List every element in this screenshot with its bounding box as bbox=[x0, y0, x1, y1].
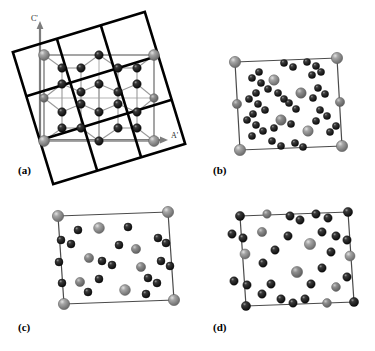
unit-cell-box-d bbox=[240, 212, 354, 306]
panel-d-graphic bbox=[0, 0, 375, 351]
atom-group-d bbox=[228, 207, 359, 310]
crystal-structure-figure: C' A' (a) bbox=[0, 0, 375, 351]
panel-label-d: (d) bbox=[213, 322, 226, 333]
panel-d bbox=[0, 0, 375, 351]
